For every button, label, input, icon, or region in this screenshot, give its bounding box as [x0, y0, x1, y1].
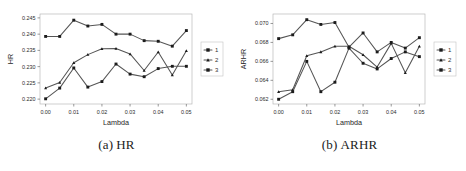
series-marker-3 — [86, 86, 89, 89]
series-marker-3 — [143, 75, 146, 78]
series-marker-1 — [143, 39, 146, 42]
series-marker-3 — [404, 50, 407, 53]
series-marker-3 — [185, 65, 188, 68]
series-marker-3 — [319, 90, 322, 93]
x-axis-title: Lambda — [103, 118, 129, 127]
panel-arhr: 0.0620.0640.0660.0680.0700.000.010.020.0… — [233, 0, 466, 171]
x-tick-label: 0.01 — [302, 109, 313, 115]
x-tick-label: 0.00 — [40, 109, 51, 115]
x-tick-label: 0.02 — [97, 109, 108, 115]
y-tick-label: 0.220 — [22, 96, 36, 102]
y-tick-label: 0.240 — [22, 31, 36, 37]
x-tick-label: 0.05 — [181, 109, 192, 115]
series-marker-1 — [157, 40, 160, 43]
panel-hr: 0.2200.2250.2300.2350.2400.2450.000.010.… — [0, 0, 233, 171]
y-tick-label: 0.068 — [255, 39, 269, 45]
series-marker-1 — [362, 31, 365, 34]
caption-tag-a: (a) — [98, 137, 113, 152]
series-marker-3 — [362, 62, 365, 65]
y-tick-label: 0.070 — [255, 20, 269, 26]
series-marker-3 — [157, 67, 160, 70]
y-tick-label: 0.230 — [22, 64, 36, 70]
series-marker-3 — [129, 73, 132, 76]
series-marker-3 — [171, 65, 174, 68]
series-marker-1 — [277, 37, 280, 40]
series-marker-3 — [58, 87, 61, 90]
y-tick-label: 0.064 — [255, 77, 269, 83]
series-marker-3 — [418, 55, 421, 58]
series-marker-1 — [418, 36, 421, 39]
legend-swatch-marker-3 — [206, 68, 209, 71]
y-tick-label: 0.225 — [22, 80, 36, 86]
x-axis-title: Lambda — [336, 118, 362, 127]
legend-box — [201, 42, 223, 76]
series-marker-3 — [305, 60, 308, 63]
x-tick-label: 0.00 — [273, 109, 284, 115]
y-axis-title: HR — [6, 54, 15, 64]
series-marker-3 — [277, 98, 280, 101]
series-marker-1 — [129, 33, 132, 36]
y-axis-title: ARHR — [239, 49, 248, 69]
series-marker-3 — [44, 97, 47, 100]
plot-area-arhr: 0.0620.0640.0660.0680.0700.000.010.020.0… — [233, 0, 466, 136]
caption-arhr: (b)ARHR — [233, 137, 466, 153]
series-marker-1 — [376, 50, 379, 53]
series-marker-1 — [404, 47, 407, 50]
series-marker-3 — [115, 63, 118, 66]
series-marker-1 — [185, 29, 188, 32]
x-tick-label: 0.03 — [358, 109, 369, 115]
x-tick-label: 0.04 — [153, 109, 164, 115]
caption-tag-b: (b) — [322, 137, 338, 152]
series-marker-1 — [58, 35, 61, 38]
caption-text-a: HR — [116, 137, 134, 152]
series-marker-1 — [171, 45, 174, 48]
series-marker-1 — [333, 21, 336, 24]
series-marker-3 — [333, 81, 336, 84]
series-marker-3 — [100, 80, 103, 83]
series-marker-1 — [305, 18, 308, 21]
x-tick-label: 0.02 — [330, 109, 341, 115]
series-marker-1 — [72, 19, 75, 22]
series-marker-1 — [100, 23, 103, 26]
plot-area-hr: 0.2200.2250.2300.2350.2400.2450.000.010.… — [0, 0, 233, 136]
caption-text-b: ARHR — [340, 137, 377, 152]
y-tick-label: 0.066 — [255, 58, 269, 64]
series-marker-3 — [376, 67, 379, 70]
x-tick-label: 0.01 — [69, 109, 80, 115]
caption-hr: (a)HR — [0, 137, 233, 153]
legend-swatch-marker-3 — [439, 68, 442, 71]
chart-arhr: 0.0620.0640.0660.0680.0700.000.010.020.0… — [233, 0, 466, 136]
series-marker-3 — [291, 90, 294, 93]
legend-swatch-marker-1 — [439, 48, 442, 51]
series-marker-1 — [319, 23, 322, 26]
series-marker-1 — [291, 33, 294, 36]
figure-container: 0.2200.2250.2300.2350.2400.2450.000.010.… — [0, 0, 466, 171]
series-marker-3 — [390, 57, 393, 60]
x-tick-label: 0.05 — [414, 109, 425, 115]
legend-box — [434, 42, 456, 76]
series-marker-3 — [72, 66, 75, 69]
x-tick-label: 0.04 — [386, 109, 397, 115]
series-marker-1 — [86, 25, 89, 28]
series-marker-1 — [44, 35, 47, 38]
y-tick-label: 0.235 — [22, 47, 36, 53]
x-tick-label: 0.03 — [125, 109, 136, 115]
chart-hr: 0.2200.2250.2300.2350.2400.2450.000.010.… — [0, 0, 233, 136]
series-marker-1 — [115, 33, 118, 36]
y-tick-label: 0.062 — [255, 96, 269, 102]
legend-swatch-marker-1 — [206, 48, 209, 51]
y-tick-label: 0.245 — [22, 15, 36, 21]
series-marker-3 — [348, 47, 351, 50]
